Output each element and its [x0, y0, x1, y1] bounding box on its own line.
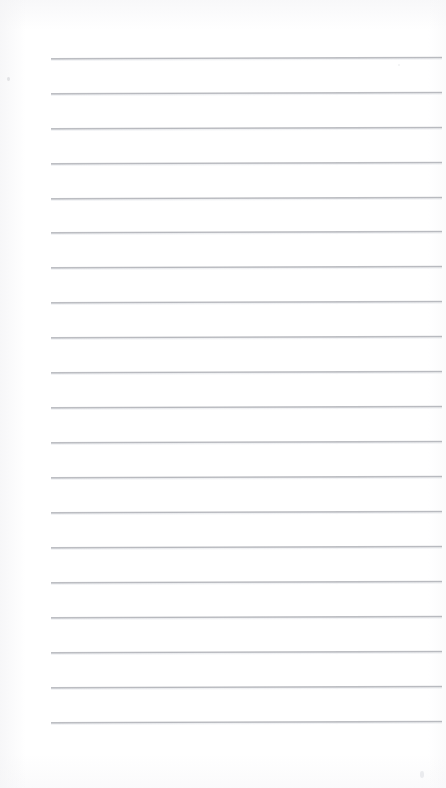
ruled-line [51, 57, 442, 60]
ruled-line [51, 92, 442, 95]
ruled-lines-group [0, 0, 446, 788]
ruled-line [51, 162, 442, 165]
ruled-line [51, 651, 442, 654]
ruled-line [51, 406, 442, 409]
ruled-line [51, 127, 442, 130]
ruled-line [51, 336, 442, 339]
ruled-line [51, 476, 442, 479]
ruled-line [51, 197, 442, 200]
ruled-line [51, 371, 442, 374]
ruled-line [51, 686, 442, 689]
ruled-line [51, 266, 442, 269]
ruled-line [51, 721, 442, 724]
scanned-page [0, 0, 446, 788]
ruled-line [51, 231, 442, 234]
ruled-line [51, 581, 442, 584]
ruled-line [51, 301, 442, 304]
ruled-line [51, 616, 442, 619]
ruled-line [51, 546, 442, 549]
ruled-line [51, 441, 442, 444]
ruled-line [51, 511, 442, 514]
